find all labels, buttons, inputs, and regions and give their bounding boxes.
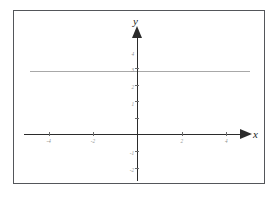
y-tick: [135, 101, 139, 102]
coordinate-plane-figure: -4 -2 2 4 4 3 2 1 -1 -2 x y: [0, 0, 279, 197]
x-tick: [226, 132, 227, 136]
y-tick-label: 1: [126, 102, 134, 107]
x-tick-label: 4: [225, 139, 228, 144]
y-tick-label: 3: [126, 69, 134, 74]
y-tick-label: 4: [126, 53, 134, 58]
x-tick-label: -2: [91, 139, 95, 144]
x-tick-label: 2: [181, 139, 184, 144]
x-tick: [182, 132, 183, 136]
y-tick: [135, 118, 139, 119]
y-tick: [135, 151, 139, 152]
y-axis: [137, 36, 139, 181]
x-tick: [49, 132, 50, 136]
y-axis-arrow-icon: [132, 26, 142, 38]
x-tick-label: -4: [46, 139, 50, 144]
y-tick-label: -1: [124, 152, 134, 157]
y-axis-label: y: [133, 16, 138, 27]
x-axis-label: x: [253, 129, 258, 140]
function-line-y-equals-3: [30, 71, 250, 72]
x-tick: [93, 132, 94, 136]
plot-area: -4 -2 2 4 4 3 2 1 -1 -2 x y: [0, 0, 279, 197]
x-axis-arrow-icon: [240, 129, 252, 139]
y-tick-label: 2: [126, 85, 134, 90]
y-tick: [135, 85, 139, 86]
y-tick: [135, 168, 139, 169]
y-tick: [135, 68, 139, 69]
y-tick-label: -2: [124, 168, 134, 173]
